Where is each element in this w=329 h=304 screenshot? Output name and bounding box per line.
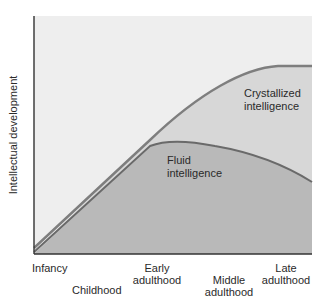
x-tick-middle-adulthood: Middle adulthood: [199, 274, 259, 298]
late-line1: Late: [256, 262, 316, 274]
early-line1: Early: [127, 262, 187, 274]
fluid-label-line1: Fluid: [167, 154, 222, 167]
x-tick-late-adulthood: Late adulthood: [256, 262, 316, 286]
fluid-label-line2: intelligence: [167, 167, 222, 180]
chart-canvas: [0, 0, 329, 304]
early-line2: adulthood: [127, 274, 187, 286]
crystallized-label-line2: intelligence: [244, 100, 301, 113]
x-tick-infancy: Infancy: [32, 262, 67, 274]
y-axis-label-text: Intellectual development: [7, 76, 19, 195]
crystallized-annotation: Crystallized intelligence: [244, 87, 301, 113]
middle-line2: adulthood: [199, 286, 259, 298]
crystallized-label-line1: Crystallized: [244, 87, 301, 100]
x-tick-early-adulthood: Early adulthood: [127, 262, 187, 286]
x-tick-childhood: Childhood: [72, 284, 122, 296]
late-line2: adulthood: [256, 274, 316, 286]
middle-line1: Middle: [199, 274, 259, 286]
fluid-annotation: Fluid intelligence: [167, 154, 222, 180]
